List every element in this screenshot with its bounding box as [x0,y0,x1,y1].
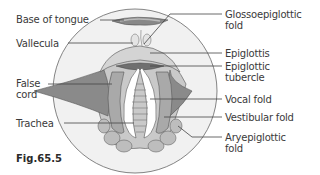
label-epiglottic-tubercle: Epiglottic tubercle [225,61,270,83]
label-vallecula: Vallecula [16,38,59,49]
label-vocal-fold: Vocal fold [225,94,272,105]
label-epiglottic-tubercle-line2: tubercle [225,72,270,83]
label-glossoepiglottic-line1: Glossoepiglottic [225,9,302,20]
label-glossoepiglottic-line2: fold [225,20,302,31]
label-glossoepiglottic-fold: Glossoepiglottic fold [225,9,302,31]
label-aryepiglottic-line2: fold [225,143,286,154]
label-epiglottic-tubercle-line1: Epiglottic [225,61,270,72]
label-base-of-tongue: Base of tongue [16,14,89,25]
label-false-cord-line2: cord [16,89,40,100]
label-trachea: Trachea [16,118,54,129]
label-false-cord: False cord [16,78,40,100]
label-vestibular-fold: Vestibular fold [225,112,294,123]
label-epiglottis: Epiglottis [225,48,270,59]
figure-caption: Fig.65.5 [16,153,62,164]
label-aryepiglottic-line1: Aryepiglottic [225,132,286,143]
vallecula-left [131,34,139,46]
label-aryepiglottic-fold: Aryepiglottic fold [225,132,286,154]
label-false-cord-line1: False [16,78,40,89]
